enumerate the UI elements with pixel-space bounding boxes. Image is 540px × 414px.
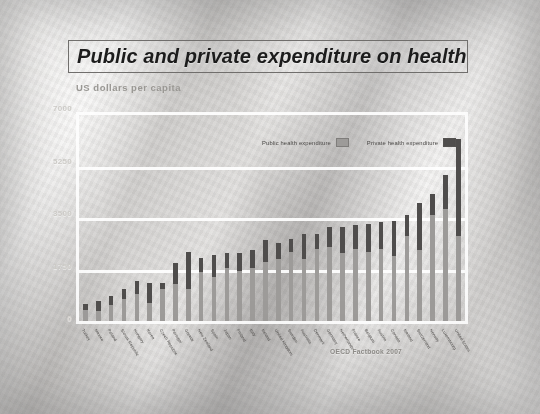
x-axis-label-cell: Ireland bbox=[259, 326, 272, 388]
x-axis-label-cell: Switzerland bbox=[413, 326, 426, 388]
x-axis-label-cell: Japan bbox=[220, 326, 233, 388]
chart-legend: Public health expenditurePrivate health … bbox=[262, 138, 456, 147]
bar-segment-private bbox=[122, 289, 127, 299]
bar-segment-private bbox=[173, 263, 178, 284]
bar-column[interactable] bbox=[233, 115, 246, 321]
legend-label: Private health expenditure bbox=[367, 140, 438, 146]
legend-item[interactable]: Public health expenditure bbox=[262, 138, 349, 147]
x-axis-label-cell: Korea bbox=[143, 326, 156, 388]
bar-stack bbox=[366, 224, 371, 321]
bar-segment-private bbox=[366, 224, 371, 252]
bar-stack bbox=[122, 289, 127, 321]
x-axis-label-cell: United States bbox=[452, 326, 465, 388]
legend-swatch-public bbox=[336, 138, 349, 147]
bar-segment-public bbox=[237, 271, 242, 321]
bar-segment-private bbox=[276, 243, 281, 259]
bar-segment-private bbox=[237, 253, 242, 271]
x-axis-label-cell: Austria bbox=[375, 326, 388, 388]
bar-segment-public bbox=[443, 209, 448, 321]
bar-stack bbox=[147, 283, 152, 321]
bar-segment-public bbox=[186, 289, 191, 321]
x-axis-label: Spain bbox=[210, 328, 220, 340]
legend-swatch-private bbox=[443, 138, 456, 147]
bar-segment-private bbox=[225, 253, 230, 268]
x-axis-label-cell: New Zealand bbox=[195, 326, 208, 388]
bar-stack bbox=[96, 301, 101, 321]
bar-segment-private bbox=[392, 221, 397, 256]
bar-segment-private bbox=[250, 250, 255, 268]
x-axis-label-cell: Australia bbox=[298, 326, 311, 388]
bar-column[interactable] bbox=[118, 115, 131, 321]
bar-segment-public bbox=[392, 256, 397, 321]
bar-column[interactable] bbox=[130, 115, 143, 321]
bar-stack bbox=[302, 234, 307, 321]
source-credit: OECD Factbook 2007 bbox=[330, 348, 402, 355]
y-axis-tick: 5250 bbox=[53, 156, 72, 165]
y-axis: 01750350052507000 bbox=[38, 104, 74, 332]
bar-stack bbox=[263, 240, 268, 321]
bar-column[interactable] bbox=[79, 115, 92, 321]
bar-segment-private bbox=[109, 296, 114, 305]
bar-column[interactable] bbox=[220, 115, 233, 321]
bar-column[interactable] bbox=[105, 115, 118, 321]
bar-segment-private bbox=[340, 227, 345, 253]
bar-stack bbox=[392, 221, 397, 321]
bar-segment-private bbox=[289, 239, 294, 252]
x-axis-label-cell: Portugal bbox=[169, 326, 182, 388]
bar-segment-private bbox=[405, 215, 410, 236]
page-title: Public and private expenditure on health bbox=[69, 45, 467, 68]
bar-stack bbox=[186, 252, 191, 321]
x-axis-label-cell: Spain bbox=[208, 326, 221, 388]
bar-segment-private bbox=[199, 258, 204, 273]
bar-column[interactable] bbox=[208, 115, 221, 321]
bar-segment-private bbox=[353, 225, 358, 249]
bar-column[interactable] bbox=[143, 115, 156, 321]
bar-stack bbox=[379, 222, 384, 321]
bar-segment-public bbox=[225, 268, 230, 321]
bar-stack bbox=[417, 203, 422, 321]
bar-segment-private bbox=[302, 234, 307, 260]
x-axis-label: Austria bbox=[377, 328, 388, 342]
bar-column[interactable] bbox=[246, 115, 259, 321]
bar-segment-public bbox=[147, 303, 152, 321]
presentation-slide: Public and private expenditure on health… bbox=[0, 0, 540, 414]
legend-item[interactable]: Private health expenditure bbox=[367, 138, 456, 147]
x-axis-label-cell: Luxembourg bbox=[439, 326, 452, 388]
x-axis-label: Japan bbox=[223, 328, 233, 341]
title-box: Public and private expenditure on health bbox=[68, 40, 468, 73]
bar-stack bbox=[109, 296, 114, 321]
bar-stack bbox=[353, 225, 358, 321]
x-axis-label-cell: Netherlands bbox=[336, 326, 349, 388]
bar-segment-public bbox=[289, 252, 294, 321]
bar-segment-public bbox=[315, 249, 320, 321]
bar-segment-private bbox=[263, 240, 268, 262]
x-axis-label-cell: Finland bbox=[233, 326, 246, 388]
bar-segment-public bbox=[405, 236, 410, 321]
x-axis-label-cell: Sweden bbox=[285, 326, 298, 388]
bar-segment-private bbox=[456, 139, 461, 236]
bar-segment-private bbox=[96, 301, 101, 311]
x-axis-label-cell: United Kingdom bbox=[272, 326, 285, 388]
bar-column[interactable] bbox=[169, 115, 182, 321]
bar-stack bbox=[250, 250, 255, 321]
bar-segment-private bbox=[186, 252, 191, 289]
x-axis-label-cell: Canada bbox=[388, 326, 401, 388]
bar-column[interactable] bbox=[156, 115, 169, 321]
x-axis-label: Ireland bbox=[261, 328, 272, 342]
x-axis-label-cell: Norway bbox=[426, 326, 439, 388]
y-axis-tick: 7000 bbox=[53, 104, 72, 113]
bar-segment-public bbox=[340, 253, 345, 321]
bar-column[interactable] bbox=[195, 115, 208, 321]
bar-segment-public bbox=[327, 247, 332, 321]
bar-column[interactable] bbox=[182, 115, 195, 321]
bar-stack bbox=[237, 253, 242, 321]
bar-segment-public bbox=[276, 259, 281, 321]
bar-column[interactable] bbox=[92, 115, 105, 321]
bar-segment-private bbox=[417, 203, 422, 250]
x-axis-label: United States bbox=[454, 328, 472, 353]
bar-segment-public bbox=[417, 250, 422, 321]
bar-stack bbox=[173, 263, 178, 321]
x-axis-label: Korea bbox=[145, 328, 155, 340]
bar-segment-public bbox=[109, 305, 114, 321]
x-axis-label-cell: Greece bbox=[182, 326, 195, 388]
